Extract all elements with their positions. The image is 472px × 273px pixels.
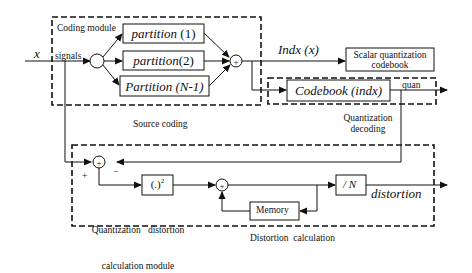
source-coding-caption: Source coding: [133, 120, 188, 130]
input-x-label: x: [34, 47, 40, 60]
partition-n1-label: Partition (N-1): [120, 80, 209, 93]
svg-text:+: +: [96, 158, 101, 168]
coding-module-label: Coding module: [57, 24, 116, 34]
scalar-quantization-label: Scalar quantization codebook: [346, 50, 434, 70]
distortion-calculation-caption: Distortion calculation: [250, 234, 335, 244]
quantization-decoding-caption: Quantization decoding: [328, 113, 408, 135]
partition-2-label: partition(2): [123, 54, 204, 67]
signals-label: signals: [55, 52, 81, 62]
svg-text:+: +: [219, 181, 224, 191]
distortion-output-label: distortion: [371, 187, 422, 200]
quan-label: quan: [402, 81, 420, 91]
codebook-label: Codebook (indx): [287, 84, 390, 97]
plus-sign: +: [82, 172, 87, 182]
divide-n-label: / N: [343, 179, 356, 190]
quantization-distortion-module-caption: Quantization distortion calculation modu…: [88, 200, 188, 273]
svg-text:+: +: [233, 57, 238, 67]
splitter-node: [90, 54, 104, 68]
square-label: (.)2: [142, 178, 173, 190]
minus-sign: −: [113, 168, 118, 178]
index-output-label: Indx (x): [278, 43, 319, 56]
partition-1-label: partition (1): [123, 27, 204, 40]
memory-label: Memory: [256, 206, 289, 216]
